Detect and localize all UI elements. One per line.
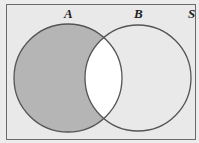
set-b-label: B [133,6,143,21]
venn-diagram: A B S [0,0,199,143]
universe-label: S [188,6,195,21]
set-a-label: A [63,6,73,21]
